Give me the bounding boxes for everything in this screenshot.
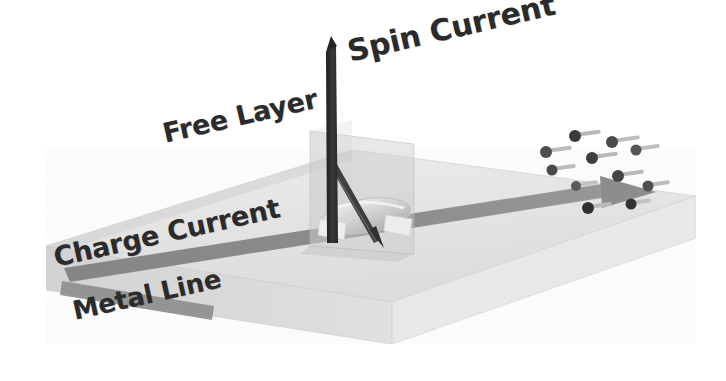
electron [569, 129, 601, 142]
electron [547, 164, 577, 176]
electron [631, 144, 661, 156]
electron [612, 169, 644, 182]
electron [643, 180, 671, 192]
electron [586, 151, 618, 164]
electron [540, 145, 572, 158]
spin-current-arrow [326, 36, 338, 243]
spin-current-arrow-shaft [326, 44, 338, 243]
figure-canvas: Spin Current Free Layer Charge Current M… [0, 0, 726, 381]
